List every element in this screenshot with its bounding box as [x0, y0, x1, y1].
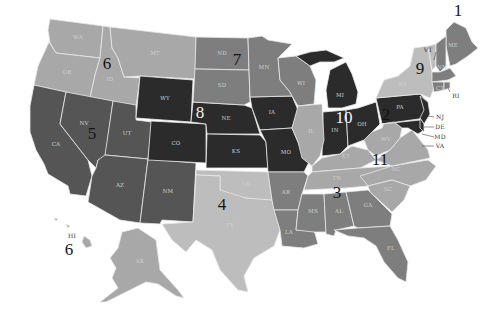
label-mn: MN — [259, 64, 270, 70]
state-fl[interactable] — [334, 226, 408, 282]
label-ct: CT — [436, 85, 444, 91]
us-region-map: WA OR ID MT WY ND SD NE KS CO UT NV CA A… — [0, 0, 503, 321]
region-number-1: 1 — [454, 1, 463, 20]
region-number-6-hawaii: 6 — [65, 240, 74, 259]
label-il: IL — [308, 128, 314, 134]
label-mt: MT — [150, 50, 160, 56]
label-wy: WY — [160, 95, 170, 101]
region-number-5: 5 — [88, 124, 97, 143]
label-co: CO — [171, 140, 180, 146]
region-number-9: 9 — [416, 59, 425, 78]
label-nm: NM — [163, 188, 174, 194]
label-va: VA — [435, 142, 445, 149]
label-sd: SD — [218, 82, 227, 88]
state-az[interactable] — [88, 155, 148, 223]
label-ut: UT — [123, 130, 132, 136]
label-wv: WV — [381, 136, 392, 142]
region-number-3: 3 — [333, 183, 342, 202]
label-ms: MS — [308, 208, 318, 214]
label-fl: FL — [387, 245, 395, 251]
label-mi: MI — [336, 92, 344, 98]
label-mo: MO — [281, 149, 292, 155]
label-nc: NC — [391, 166, 400, 172]
label-in: IN — [331, 127, 338, 133]
label-id: ID — [107, 76, 114, 82]
label-ak: AK — [135, 258, 145, 264]
label-hi: HI — [68, 232, 76, 239]
region-number-8: 8 — [196, 103, 205, 122]
state-ny[interactable] — [376, 46, 434, 98]
label-or: OR — [62, 69, 72, 75]
label-nd: ND — [217, 50, 227, 56]
label-ri: RI — [452, 92, 460, 99]
state-ri[interactable] — [444, 82, 450, 90]
label-wa: WA — [73, 34, 84, 40]
region-number-2: 2 — [382, 105, 391, 124]
label-ny: NY — [399, 81, 408, 87]
label-pa: PA — [396, 104, 404, 110]
label-ga: GA — [364, 202, 374, 208]
label-az: AZ — [115, 182, 124, 188]
label-vt: VT — [423, 46, 433, 53]
label-wi: WI — [297, 80, 305, 86]
label-oh: OH — [357, 121, 367, 127]
label-de: DE — [435, 123, 445, 130]
region-1[interactable] — [432, 22, 478, 92]
label-ne: NE — [221, 115, 230, 121]
label-nh: NH — [437, 64, 447, 70]
label-tx: TX — [226, 222, 234, 228]
label-ok: OK — [241, 181, 251, 187]
label-tn: TN — [333, 175, 342, 181]
label-nj: NJ — [436, 113, 444, 121]
label-md: MD — [434, 133, 445, 140]
label-sc: SC — [384, 186, 392, 192]
label-al: AL — [334, 208, 343, 214]
region-number-7: 7 — [233, 50, 242, 69]
label-ca: CA — [52, 141, 61, 147]
label-ky: KY — [342, 153, 350, 159]
region-number-6: 6 — [103, 54, 112, 73]
region-7[interactable] — [193, 36, 316, 106]
label-ks: KS — [232, 148, 240, 154]
label-me: ME — [448, 42, 458, 48]
label-la: LA — [285, 229, 294, 235]
region-number-11: 11 — [372, 150, 388, 169]
label-ar: AR — [281, 189, 291, 195]
label-ia: IA — [269, 109, 276, 115]
region-number-4: 4 — [218, 195, 227, 214]
region-number-10: 10 — [336, 108, 353, 127]
